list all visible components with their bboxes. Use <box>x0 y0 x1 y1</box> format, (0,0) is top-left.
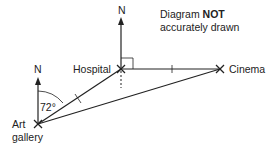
art-gallery-hospital-line <box>38 69 121 124</box>
diagram-note: Diagram NOT accurately drawn <box>160 8 239 34</box>
note-prefix: Diagram <box>160 8 200 20</box>
hospital-label: Hospital <box>73 63 111 75</box>
art-gallery-north-label: N <box>34 63 42 75</box>
hospital-north-label: N <box>118 4 126 16</box>
cinema-label: Cinema <box>229 63 265 75</box>
bearing-angle-label: 72° <box>40 101 56 113</box>
note-suffix: accurately drawn <box>160 21 239 33</box>
art-gallery-label-line2: gallery <box>12 131 43 143</box>
art-gallery-label-line1: Art <box>12 118 25 130</box>
art-gallery-cinema-line <box>38 69 220 124</box>
note-emphasis: NOT <box>203 8 225 20</box>
